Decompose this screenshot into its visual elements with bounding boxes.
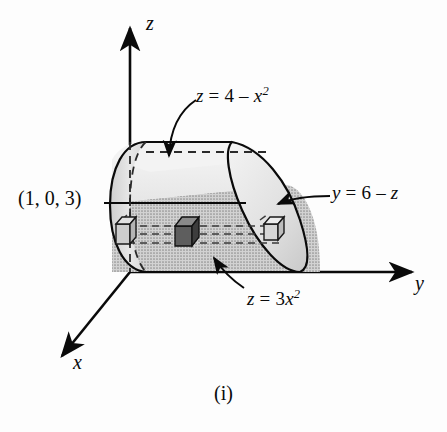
prism-right-end [264,217,284,240]
label-slant-rhs-b: z [391,182,399,203]
label-top-exponent: 2 [262,84,268,98]
label-slant-op: – [376,182,386,203]
point-label-1-0-3: (1, 0, 3) [18,187,81,210]
label-slant-plane: y = 6 – z [332,182,398,204]
figure-caption: (i) [0,382,447,405]
label-slant-rhs-a: 6 [361,182,371,203]
label-bottom-exponent: 2 [294,287,300,301]
differential-volume-cube [175,217,199,246]
label-top-eq: = [209,85,220,106]
axis-label-y: y [415,272,424,295]
x-axis [62,272,130,356]
label-bottom-eq: = [260,288,271,309]
axis-label-x: x [73,351,82,374]
label-slant-lhs: y [332,182,341,203]
figure-container: z = 4 – x2 y = 6 – z z = 3x2 (1, 0, 3) z… [0,0,447,432]
label-bottom-var: x [285,288,294,309]
prism-left-end [116,217,136,244]
label-bottom-coef: 3 [275,288,285,309]
label-bottom-surface: z = 3x2 [247,287,300,310]
label-top-op: – [239,85,249,106]
label-top-lhs: z [196,85,204,106]
label-top-rhs-a: 4 [224,85,234,106]
axis-label-z: z [146,12,154,35]
label-top-surface: z = 4 – x2 [196,84,269,107]
label-slant-eq: = [346,182,357,203]
label-bottom-lhs: z [247,288,255,309]
solid-region [110,142,320,272]
solid-region-diagram [0,0,447,432]
